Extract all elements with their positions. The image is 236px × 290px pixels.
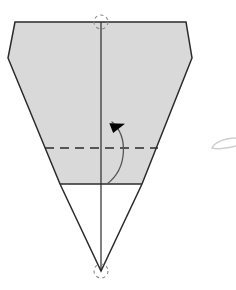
origami-diagram-canvas: Origami diagram showing a tapered paper … xyxy=(0,0,236,290)
origami-figure-svg xyxy=(0,0,236,290)
